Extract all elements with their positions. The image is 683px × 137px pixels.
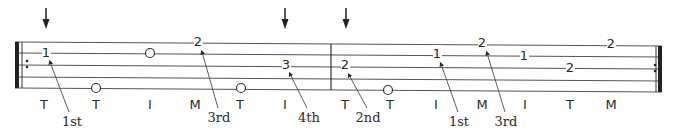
- fret-number: 1: [42, 45, 50, 60]
- thick-barline: [658, 46, 662, 92]
- pointer-arrow: [441, 64, 458, 112]
- finger-label: I: [283, 97, 287, 112]
- finger-label: I: [148, 97, 152, 112]
- ordinal-label: 2nd: [356, 110, 381, 125]
- open-string-note: [384, 86, 393, 95]
- pointer-arrow: [349, 75, 367, 108]
- staff-line: [15, 88, 662, 92]
- fret-number: 2: [341, 57, 349, 72]
- finger-label: M: [605, 97, 616, 112]
- finger-label: T: [91, 97, 100, 112]
- down-arrow-icon: [43, 19, 50, 29]
- pointer-arrow: [202, 52, 218, 108]
- fret-number: 2: [607, 36, 615, 51]
- strum-arrows: [43, 8, 350, 29]
- staff-line: [15, 42, 662, 46]
- tablature-staff: 123212122 TTIMTITTIMITM 1st3rd4th2nd1st3…: [0, 0, 683, 137]
- pointer-arrow: [50, 62, 69, 112]
- finger-label: M: [476, 97, 487, 112]
- ordinal-label: 1st: [62, 114, 83, 129]
- finger-label: I: [434, 97, 438, 112]
- fingering-row: TTIMTITTIMITM: [39, 97, 617, 112]
- ordinal-label: 1st: [449, 114, 470, 129]
- repeat-dot: [654, 64, 657, 67]
- ordinal-label: 3rd: [208, 110, 231, 125]
- open-string-note: [237, 84, 246, 93]
- repeat-dot: [654, 70, 657, 73]
- finger-label: I: [523, 97, 527, 112]
- repeat-dot: [26, 66, 29, 69]
- finger-label: T: [385, 97, 394, 112]
- fret-number: 2: [194, 34, 202, 49]
- fret-number: 1: [520, 48, 528, 63]
- fret-number: 3: [282, 57, 290, 72]
- finger-label: M: [189, 97, 200, 112]
- fret-number: 1: [433, 46, 441, 61]
- ordinal-label: 4th: [298, 110, 320, 125]
- fret-number: 2: [566, 60, 574, 75]
- thick-barline: [15, 42, 19, 88]
- ordinal-label: 3rd: [495, 114, 518, 129]
- fret-number: 2: [478, 35, 486, 50]
- down-arrow-icon: [282, 19, 289, 29]
- open-string-note: [92, 84, 101, 93]
- open-string-note: [146, 49, 155, 58]
- finger-label: T: [39, 97, 48, 112]
- repeat-dot: [26, 60, 29, 63]
- down-arrow-icon: [343, 19, 350, 29]
- finger-label: T: [340, 97, 349, 112]
- finger-label: T: [565, 97, 574, 112]
- staff-line: [15, 53, 662, 57]
- pointer-arrow: [487, 53, 505, 112]
- staff-line: [15, 77, 662, 81]
- finger-label: T: [235, 97, 244, 112]
